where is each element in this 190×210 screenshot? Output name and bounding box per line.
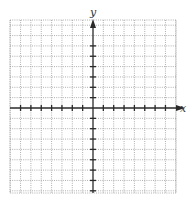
coordinate-plane: x y [0, 0, 190, 210]
y-axis-arrow-icon [90, 19, 96, 28]
axes [10, 19, 185, 193]
y-axis-label: y [89, 6, 97, 19]
x-axis-label: x [180, 102, 187, 115]
